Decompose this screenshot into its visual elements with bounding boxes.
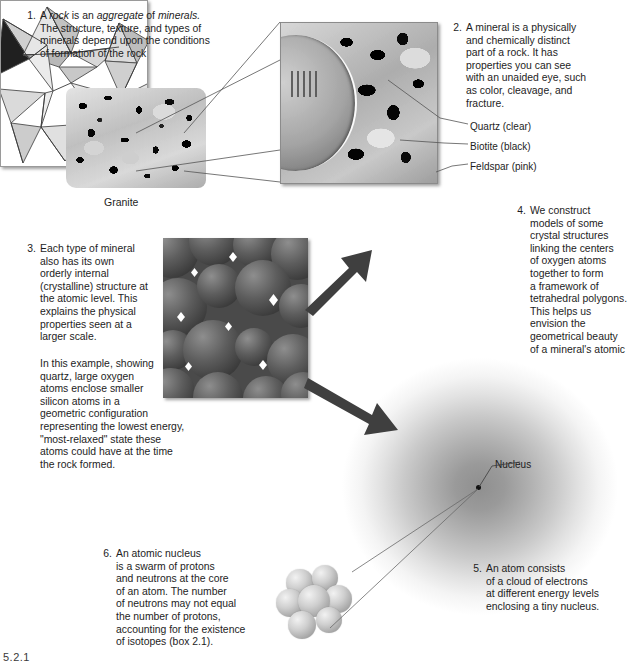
oxygen-atom <box>163 368 195 398</box>
mineral-label-biotite: Biotite (black) <box>470 141 531 152</box>
granite-rock-photo <box>66 88 206 188</box>
mineral-label-feldspar: Feldspar (pink) <box>470 161 537 172</box>
magnified-granite-inset <box>280 22 438 184</box>
panel-4-line-12: of a mineral's atomic <box>530 344 625 355</box>
nucleon-sphere <box>288 611 316 639</box>
panel-6-line-4: of an atom. The number <box>116 586 227 597</box>
nucleus-point <box>476 485 481 490</box>
arrow-to-crystal-icon <box>305 250 372 316</box>
panel-4-number: 4. <box>512 205 526 218</box>
figure-number-mark: 5.2.1 <box>3 651 30 663</box>
tetrahedron-face <box>59 67 97 83</box>
panel-4-line-7: a framework of <box>530 281 599 292</box>
panel-3-line-1: Each type of mineral <box>40 243 135 254</box>
panel-3b-line-4: silicon atoms in a <box>40 396 120 407</box>
panel-3-line-8: larger scale. <box>40 331 97 342</box>
panel-6-line-3: and neutrons at the core <box>116 573 229 584</box>
panel-5-text: 5. An atom consists of a cloud of electr… <box>468 563 633 613</box>
panel-3b-line-9: the rock formed. <box>40 459 115 470</box>
panel-6-line-8: of isotopes (box 2.1). <box>116 636 213 647</box>
panel-6-number: 6. <box>98 548 112 561</box>
panel-1-line-2: The structure, texture, and types of <box>40 23 201 34</box>
panel-3b-line-8: atoms could have at the time <box>40 446 173 457</box>
panel-6-line-2: is a swarm of protons <box>116 561 215 572</box>
panel-3b-line-5: geometric configuration <box>40 408 148 419</box>
panel-4-line-8: tetrahedral polygons. <box>530 293 627 304</box>
panel-3-body: Each type of mineral also has its own or… <box>40 243 172 344</box>
panel-1-text: 1. A rock is an aggregate of minerals. T… <box>22 10 237 60</box>
nucleus-label: Nucleus <box>495 459 531 470</box>
panel-6-line-6: the number of protons, <box>116 611 221 622</box>
panel-3b-line-3: atoms enclose smaller <box>40 383 143 394</box>
panel-4-line-10: envision the <box>530 318 585 329</box>
figure-canvas: 1. A rock is an aggregate of minerals. T… <box>0 0 639 663</box>
panel-3-line-3: orderly internal <box>40 268 109 279</box>
nucleon-cluster-illustration <box>276 565 362 643</box>
panel-5-line-4: enclosing a tiny nucleus. <box>486 601 599 612</box>
panel-2-line-3: part of a rock. It has <box>466 47 558 58</box>
tetrahedron-face <box>11 123 41 163</box>
panel-1-line-1: A rock is an aggregate of minerals. <box>40 10 200 21</box>
panel-3-line-4: (crystalline) structure at <box>40 281 148 292</box>
panel-1-line-4: of formation of the rock <box>40 48 146 59</box>
panel-4-text: 4. We construct models of some crystal s… <box>512 205 637 369</box>
panel-1-number: 1. <box>22 10 36 23</box>
panel-5-line-2: of a cloud of electrons <box>486 576 588 587</box>
panel-6-body: An atomic nucleus is a swarm of protons … <box>116 548 273 649</box>
panel-4-line-9: This helps us <box>530 306 591 317</box>
panel-4-body: We construct models of some crystal stru… <box>530 205 637 369</box>
tetrahedron-face <box>1 89 45 123</box>
panel-5-line-1: An atom consists <box>486 563 565 574</box>
panel-5-body: An atom consists of a cloud of electrons… <box>486 563 633 613</box>
panel-1-line-3: minerals depend upon the conditions <box>40 35 210 46</box>
panel-2-body: A mineral is a physically and chemically… <box>466 22 628 110</box>
panel-2-text: 2. A mineral is a physically and chemica… <box>448 22 628 110</box>
panel-3-number: 3. <box>22 243 36 256</box>
panel-6-line-1: An atomic nucleus <box>116 548 201 559</box>
oxygen-atom <box>183 320 243 380</box>
panel-3-line-5: the atomic level. This <box>40 293 137 304</box>
panel-4-line-3: crystal structures <box>530 230 609 241</box>
panel-4-line-4: linking the centers <box>530 243 614 254</box>
panel-6-line-5: of neutrons may not equal <box>116 598 236 609</box>
panel-2-line-2: and chemically distinct <box>466 35 570 46</box>
panel-6-text: 6. An atomic nucleus is a swarm of proto… <box>98 548 273 649</box>
panel-4-line-1: We construct <box>530 205 590 216</box>
panel-4-line-5: of oxygen atoms <box>530 255 606 266</box>
panel-3-line-6: explains the physical <box>40 306 136 317</box>
interstitial-gap <box>191 268 198 277</box>
panel-3-line-2: also has its own <box>40 256 114 267</box>
quartz-atomic-model-photo <box>163 238 308 398</box>
panel-3-line-7: properties seen at a <box>40 319 132 330</box>
panel-5-line-3: at different energy levels <box>486 588 599 599</box>
panel-6-line-7: accounting for the existence <box>116 624 245 635</box>
panel-2-line-6: as color, cleavage, and <box>466 85 572 96</box>
panel-2-line-1: A mineral is a physically <box>466 22 576 33</box>
panel-3-text: 3. Each type of mineral also has its own… <box>22 243 172 344</box>
panel-3b-line-1: In this example, showing <box>40 358 154 369</box>
panel-5-number: 5. <box>468 563 482 576</box>
panel-4-line-2: models of some <box>530 218 603 229</box>
penny-edge-closeup <box>280 35 357 171</box>
panel-4-line-6: together to form <box>530 268 603 279</box>
granite-caption: Granite <box>104 196 138 208</box>
panel-3b-line-6: representing the lowest energy, <box>40 421 184 432</box>
panel-4-line-11: geometrical beauty <box>530 331 618 342</box>
panel-3b-line-2: quartz, large oxygen <box>40 371 134 382</box>
panel-3b-line-7: "most-relaxed" state these <box>40 434 161 445</box>
panel-2-line-4: properties you can see <box>466 60 571 71</box>
mineral-label-quartz: Quartz (clear) <box>470 121 531 132</box>
panel-2-line-5: with an unaided eye, such <box>466 72 586 83</box>
panel-1-body: A rock is an aggregate of minerals. The … <box>40 10 237 60</box>
nucleon-sphere <box>316 607 342 633</box>
panel-2-number: 2. <box>448 22 462 35</box>
feldspar-leader-line <box>436 164 468 172</box>
panel-2-line-7: fracture. <box>466 98 504 109</box>
